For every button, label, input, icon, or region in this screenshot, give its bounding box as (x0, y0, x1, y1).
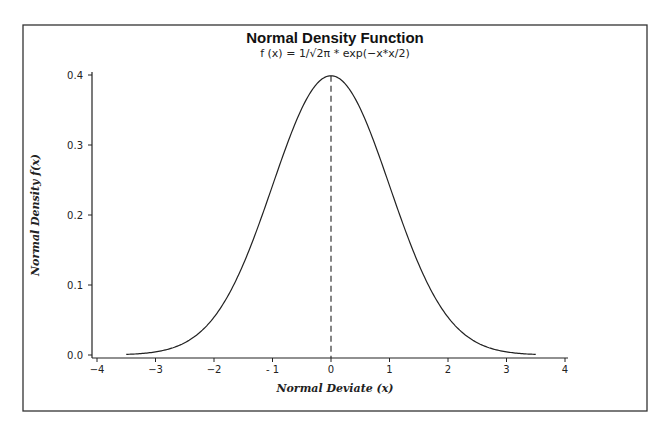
x-tick-label: - 1 (266, 364, 279, 375)
y-tick-label: 0.2 (67, 210, 83, 221)
x-axis-label: Normal Deviate (x) (275, 382, 393, 395)
x-tick-label: 4 (562, 364, 568, 375)
y-tick-label: 0.4 (67, 70, 83, 81)
x-tick-label: 1 (386, 364, 392, 375)
y-tick-label: 0.3 (67, 140, 83, 151)
y-tick-label: 0.1 (67, 280, 83, 291)
y-tick-label: 0.0 (67, 350, 83, 361)
x-tick-label: −2 (207, 364, 222, 375)
outer-frame (23, 25, 647, 411)
y-axis-label: Normal Density f(x) (29, 154, 42, 277)
x-tick-label: −3 (148, 364, 163, 375)
x-tick-label: 3 (503, 364, 509, 375)
chart-subtitle: f (x) = 1/√2π * exp(−x*x/2) (260, 47, 410, 60)
x-ticks: −4−3−2- 101234 (90, 358, 569, 375)
x-tick-label: −4 (90, 364, 105, 375)
x-tick-label: 0 (328, 364, 334, 375)
chart-title: Normal Density Function (246, 29, 424, 46)
y-ticks: 0.00.10.20.30.4 (67, 70, 92, 361)
chart: Normal Density Function f (x) = 1/√2π * … (0, 0, 672, 437)
x-tick-label: 2 (445, 364, 451, 375)
axes (92, 72, 568, 358)
